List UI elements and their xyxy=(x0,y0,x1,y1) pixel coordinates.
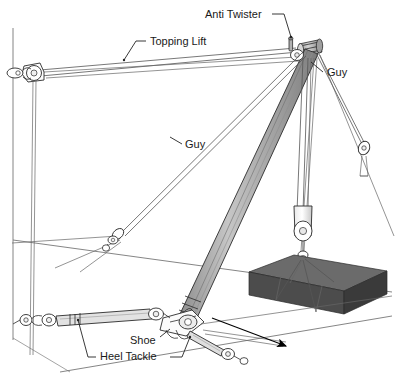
guy-pendants xyxy=(12,52,394,272)
derrick-rigging-illustration: Anti Twister Topping Lift Guy Guy Shoe H… xyxy=(0,0,397,389)
diagram-canvas: Anti Twister Topping Lift Guy Guy Shoe H… xyxy=(0,0,397,389)
label-heel-tackle: Heel Tackle xyxy=(100,350,157,362)
direction-arrow xyxy=(212,318,286,346)
anti-twister-fitting xyxy=(289,37,293,51)
label-guy-right: Guy xyxy=(327,66,348,78)
heel-tackle xyxy=(13,308,170,326)
load-block xyxy=(249,255,387,314)
label-topping-lift: Topping Lift xyxy=(150,35,206,47)
label-anti-twister: Anti Twister xyxy=(205,8,262,20)
guy-anchor-right xyxy=(356,139,372,176)
label-guy-left: Guy xyxy=(185,138,206,150)
label-shoe: Shoe xyxy=(130,334,156,346)
